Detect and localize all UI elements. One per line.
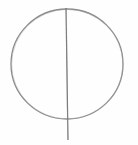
sketch-canvas xyxy=(0,0,138,145)
sketch-drawing xyxy=(0,0,138,145)
